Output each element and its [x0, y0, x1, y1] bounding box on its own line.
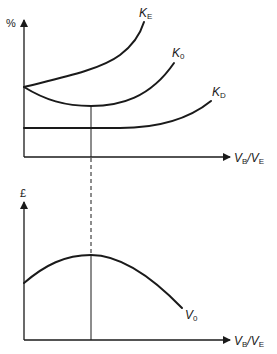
curve-ke [24, 22, 144, 87]
bottom-x-axis-label: VB/VE [234, 334, 264, 349]
label-k0: K0 [172, 46, 185, 61]
curve-k0 [24, 63, 174, 106]
bottom-y-axis-label: £ [20, 187, 26, 199]
curve-kd [24, 101, 211, 128]
label-v0: V0 [185, 308, 198, 323]
label-ke: KE [139, 6, 152, 21]
label-kd: KD [212, 85, 226, 100]
top-chart: % VB/VE KE K0 KD [6, 6, 264, 166]
top-x-axis-label: VB/VE [234, 151, 264, 166]
bottom-chart: £ VB/VE V0 [20, 187, 264, 349]
diagram-canvas: % VB/VE KE K0 KD £ VB/VE V0 [0, 0, 277, 354]
curve-v0 [24, 255, 182, 308]
top-y-axis-label: % [6, 17, 16, 29]
